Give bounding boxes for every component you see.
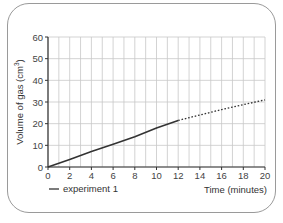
legend-label: experiment 1 <box>63 183 118 194</box>
x-tick-label: 18 <box>238 170 249 181</box>
x-tick-label: 4 <box>89 170 94 181</box>
grid <box>48 37 265 167</box>
x-tick-label: 0 <box>45 170 50 181</box>
x-axis-label: Time (minutes) <box>204 184 267 195</box>
y-axis-ticks: 0102030405060 <box>32 32 48 173</box>
x-tick-label: 6 <box>110 170 115 181</box>
x-tick-label: 14 <box>195 170 206 181</box>
x-tick-label: 20 <box>260 170 271 181</box>
legend: experiment 1 <box>49 183 118 194</box>
y-tick-label: 10 <box>32 140 43 151</box>
y-tick-label: 60 <box>32 32 43 43</box>
x-tick-label: 2 <box>67 170 72 181</box>
y-tick-label: 50 <box>32 53 43 64</box>
x-axis-ticks: 02468101214161820 <box>45 167 270 181</box>
y-tick-label: 40 <box>32 75 43 86</box>
x-tick-label: 12 <box>173 170 184 181</box>
x-tick-label: 10 <box>151 170 162 181</box>
y-axis-label: Volume of gas (cm3) <box>13 59 25 144</box>
y-tick-label: 30 <box>32 97 43 108</box>
y-tick-label: 0 <box>38 162 43 173</box>
line-chart: 0102030405060 02468101214161820 Volume o… <box>0 0 283 223</box>
x-tick-label: 8 <box>132 170 137 181</box>
x-tick-label: 16 <box>216 170 227 181</box>
y-tick-label: 20 <box>32 118 43 129</box>
